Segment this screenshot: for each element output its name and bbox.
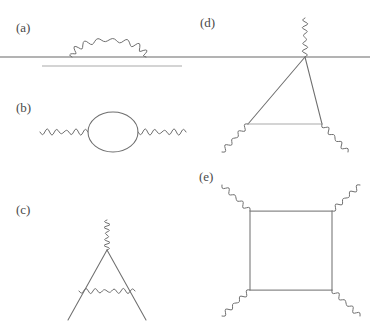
panel-c-incoming-photon — [104, 220, 110, 250]
panel-c-label: (c) — [16, 202, 30, 217]
panel-d-left-tail-photon — [222, 124, 248, 152]
panel-b-label: (b) — [16, 100, 31, 115]
panel-c-left-fermion-leg — [68, 250, 107, 320]
panel-d-label: (d) — [200, 15, 215, 30]
panel-e-bottom-left-photon — [222, 290, 250, 316]
panel-c: (c) — [16, 202, 146, 320]
panel-d-right-tail-photon — [322, 124, 348, 152]
panel-d: (d) — [200, 15, 348, 152]
panel-d-top-photon — [302, 18, 308, 57]
panel-b: (b) — [16, 100, 186, 152]
panel-e-fermion-box — [250, 211, 332, 290]
panel-b-left-photon — [40, 129, 88, 135]
panel-d-right-triangle-leg — [305, 57, 322, 124]
panel-e: (e) — [199, 169, 360, 316]
diagram-canvas: (a) (b) (c) (d) — [0, 0, 370, 323]
panel-e-top-right-photon — [332, 185, 360, 211]
panel-a: (a) — [0, 20, 370, 66]
panel-c-right-fermion-leg — [107, 250, 146, 320]
panel-d-left-triangle-leg — [248, 57, 305, 124]
panel-a-photon-arch — [70, 39, 147, 57]
panel-a-label: (a) — [16, 20, 30, 35]
panel-c-exchanged-photon — [79, 288, 135, 293]
panel-e-top-left-photon — [222, 185, 250, 211]
panel-e-label: (e) — [199, 169, 213, 184]
panel-e-bottom-right-photon — [332, 290, 360, 316]
panel-b-right-photon — [138, 129, 186, 135]
feynman-diagram-figure: (a) (b) (c) (d) — [0, 0, 370, 323]
panel-b-fermion-loop — [88, 112, 138, 152]
